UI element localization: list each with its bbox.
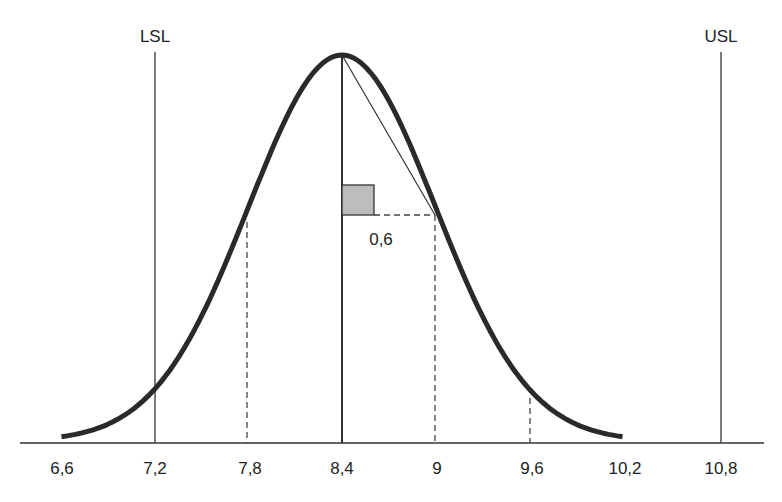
normal-distribution-chart: LSL USL 0,6 6,6 7,2 7,8 8,4 9 9,6 10,2 1… (0, 0, 782, 502)
tick-label: 7,8 (238, 459, 262, 478)
right-angle-marker (342, 185, 374, 215)
tick-label: 8,4 (330, 459, 354, 478)
tick-label: 10,2 (608, 459, 641, 478)
tick-label: 10,8 (704, 459, 737, 478)
tick-label: 6,6 (50, 459, 74, 478)
x-tick-labels: 6,6 7,2 7,8 8,4 9 9,6 10,2 10,8 (50, 459, 737, 478)
tick-label: 9 (432, 459, 441, 478)
sigma-label: 0,6 (369, 230, 393, 249)
tick-label: 9,6 (520, 459, 544, 478)
tick-label: 7,2 (143, 459, 167, 478)
lsl-label: LSL (140, 27, 170, 46)
usl-label: USL (704, 27, 737, 46)
